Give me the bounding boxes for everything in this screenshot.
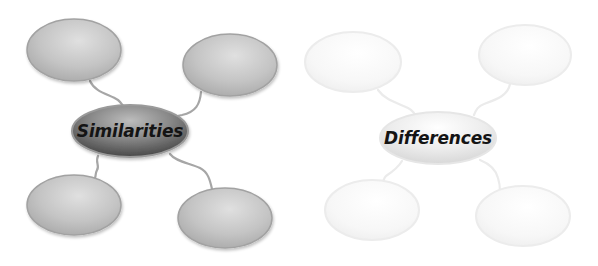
- connector-line: [95, 156, 98, 178]
- similarities-title: Similarities: [77, 121, 183, 141]
- difference-bubble-bottom-left[interactable]: [325, 180, 419, 240]
- connector-line: [378, 90, 414, 113]
- connector-line: [383, 161, 402, 181]
- similarity-bubble-top-left[interactable]: [27, 19, 121, 81]
- similarity-bubble-top-right[interactable]: [183, 34, 277, 96]
- difference-bubble-bottom-right[interactable]: [476, 186, 570, 246]
- compare-contrast-diagram: Similarities Differences: [0, 0, 598, 266]
- difference-bubble-top-left[interactable]: [305, 32, 401, 92]
- connector-line: [480, 160, 500, 192]
- similarity-bubble-bottom-right[interactable]: [178, 188, 272, 248]
- differences-title: Differences: [384, 128, 492, 148]
- connector-line: [172, 92, 201, 118]
- connector-line: [474, 84, 510, 115]
- connector-line: [90, 81, 124, 106]
- difference-bubble-top-right[interactable]: [479, 25, 571, 85]
- similarity-bubble-bottom-left[interactable]: [27, 175, 121, 235]
- connector-line: [170, 154, 212, 189]
